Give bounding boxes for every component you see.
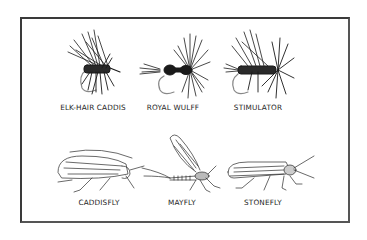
stimulator-label: STIMULATOR <box>234 103 282 112</box>
elk-hair-caddis-figure <box>62 28 132 98</box>
stonefly-insect-icon <box>224 150 316 194</box>
stimulator-fly-icon <box>222 28 298 100</box>
mayfly-label: MAYFLY <box>168 198 196 207</box>
stonefly-figure <box>224 150 316 194</box>
stonefly-label: STONEFLY <box>244 198 282 207</box>
stimulator-figure <box>222 28 298 100</box>
elk-hair-caddis-fly-icon <box>62 28 132 98</box>
elk-hair-caddis-label: ELK-HAIR CADDIS <box>60 103 126 112</box>
caddisfly-figure <box>52 148 148 194</box>
mayfly-figure <box>140 130 224 194</box>
royal-wulff-label: ROYAL WULFF <box>147 103 199 112</box>
caddisfly-insect-icon <box>52 148 148 194</box>
caddisfly-label: CADDISFLY <box>78 198 119 207</box>
royal-wulff-figure <box>138 30 214 100</box>
mayfly-insect-icon <box>140 130 224 194</box>
royal-wulff-fly-icon <box>138 30 214 100</box>
